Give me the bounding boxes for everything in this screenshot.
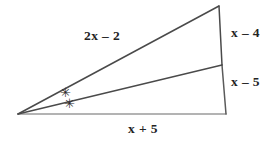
label-base: x + 5	[128, 122, 158, 136]
segment-right-side-upper	[219, 6, 222, 65]
label-upper-right-side: x – 4	[231, 26, 260, 40]
label-lower-right-side: x – 5	[231, 75, 260, 89]
label-long-side: 2x – 2	[84, 29, 120, 43]
angle-congruence-mark-lower: ✳	[64, 97, 75, 110]
segment-angle-bisector	[18, 65, 222, 114]
segment-right-side-lower	[222, 65, 226, 114]
geometry-diagram: 2x – 2 x + 5 x – 4 x – 5 ✳ ✳	[0, 0, 280, 142]
segment-long-side	[18, 6, 219, 114]
